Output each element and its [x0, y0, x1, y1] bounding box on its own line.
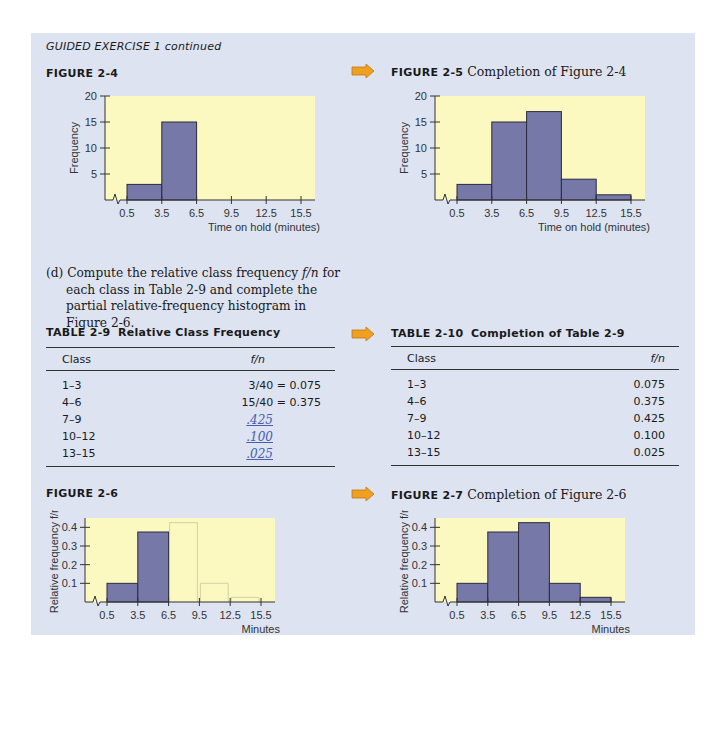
arrow-right-icon — [351, 64, 375, 78]
svg-text:20: 20 — [85, 90, 97, 102]
histogram-svg: 51015200.53.56.59.512.515.5Time on hold … — [60, 88, 330, 238]
figure-2-6-caption: FIGURE 2-6 — [46, 487, 118, 500]
table-2-10: Class f/n 1–30.0754–60.3757–90.42510–120… — [391, 346, 679, 466]
svg-text:5: 5 — [91, 168, 97, 180]
fn-cell: 0.075 — [634, 378, 680, 391]
figure-2-4-caption: FIGURE 2-4 — [46, 67, 118, 80]
histogram-svg: 0.10.20.30.40.53.56.59.512.515.5MinutesR… — [40, 510, 290, 640]
svg-text:Time on hold (minutes): Time on hold (minutes) — [208, 221, 320, 233]
instruction-text-italic: f/n — [302, 266, 318, 280]
svg-text:12.5: 12.5 — [255, 207, 276, 219]
svg-text:0.4: 0.4 — [62, 521, 77, 533]
table-2-9-label: TABLE 2-9 — [46, 326, 110, 339]
svg-text:20: 20 — [415, 90, 427, 102]
table-header-row: Class f/n — [391, 347, 679, 369]
section-header: GUIDED EXERCISE 1 continued — [46, 40, 221, 53]
handwritten-answer: .425 — [246, 413, 335, 427]
table-2-10-title: Completion of Table 2-9 — [471, 327, 625, 340]
class-cell: 13–15 — [46, 447, 96, 460]
svg-text:12.5: 12.5 — [569, 609, 590, 621]
fn-cell: 0.375 — [634, 395, 680, 408]
class-cell: 10–12 — [46, 430, 96, 443]
svg-text:0.3: 0.3 — [412, 540, 427, 552]
class-cell: 1–3 — [46, 379, 82, 392]
table-2-9-title: Relative Class Frequency — [118, 326, 280, 339]
svg-text:0.5: 0.5 — [449, 609, 464, 621]
class-cell: 7–9 — [391, 412, 427, 425]
figure-2-5-caption: FIGURE 2-5Completion of Figure 2-4 — [391, 64, 627, 79]
svg-text:6.5: 6.5 — [511, 609, 526, 621]
column-header-fn: f/n — [650, 352, 679, 365]
fn-cell: 0.100 — [634, 429, 680, 442]
table-row: 10–120.100 — [391, 427, 679, 444]
svg-text:9.5: 9.5 — [224, 207, 239, 219]
svg-text:Minutes: Minutes — [241, 623, 280, 635]
fn-cell: 15/40 = 0.375 — [242, 396, 335, 409]
fn-cell: 0.025 — [634, 446, 680, 459]
svg-text:0.5: 0.5 — [449, 207, 464, 219]
class-cell: 4–6 — [46, 396, 82, 409]
figure-2-6-histogram: 0.10.20.30.40.53.56.59.512.515.5MinutesR… — [40, 510, 290, 640]
svg-text:0.1: 0.1 — [412, 577, 427, 589]
svg-text:0.2: 0.2 — [412, 559, 427, 571]
figure-2-5-title: Completion of Figure 2-4 — [467, 64, 626, 79]
column-header-class: Class — [46, 353, 91, 366]
svg-text:0.1: 0.1 — [62, 577, 77, 589]
figure-2-7-label: FIGURE 2-7 — [391, 489, 463, 502]
class-cell: 7–9 — [46, 413, 82, 426]
class-cell: 1–3 — [391, 378, 427, 391]
figure-2-5-histogram: 51015200.53.56.59.512.515.5Time on hold … — [390, 88, 660, 238]
svg-text:3.5: 3.5 — [484, 207, 499, 219]
figure-2-5-label: FIGURE 2-5 — [391, 66, 463, 79]
figure-2-7-caption: FIGURE 2-7Completion of Figure 2-6 — [391, 487, 627, 502]
svg-text:6.5: 6.5 — [161, 609, 176, 621]
svg-text:3.5: 3.5 — [130, 609, 145, 621]
table-header-row: Class f/n — [46, 348, 335, 370]
arrow-right-icon — [351, 487, 375, 501]
figure-2-4-histogram: 51015200.53.56.59.512.515.5Time on hold … — [60, 88, 330, 238]
svg-text:3.5: 3.5 — [480, 609, 495, 621]
svg-text:0.3: 0.3 — [62, 540, 77, 552]
svg-text:6.5: 6.5 — [519, 207, 534, 219]
svg-text:15.5: 15.5 — [250, 609, 271, 621]
table-2-10-body: 1–30.0754–60.3757–90.42510–120.10013–150… — [391, 370, 679, 465]
svg-text:12.5: 12.5 — [219, 609, 240, 621]
fn-cell: 3/40 = 0.075 — [249, 379, 335, 392]
svg-text:15: 15 — [415, 116, 427, 128]
column-header-fn: f/n — [250, 353, 335, 366]
table-row: 7–90.425 — [391, 410, 679, 427]
svg-text:Time on hold (minutes): Time on hold (minutes) — [538, 221, 650, 233]
class-cell: 10–12 — [391, 429, 441, 442]
svg-text:5: 5 — [421, 168, 427, 180]
svg-text:9.5: 9.5 — [554, 207, 569, 219]
instruction-paragraph: (d) Compute the relative class frequency… — [46, 265, 346, 331]
svg-text:Frequency: Frequency — [68, 122, 80, 174]
table-row: 10–12.100 — [46, 428, 335, 445]
handwritten-answer: .100 — [246, 430, 335, 444]
svg-text:6.5: 6.5 — [189, 207, 204, 219]
svg-text:10: 10 — [415, 142, 427, 154]
histogram-svg: 0.10.20.30.40.53.56.59.512.515.5MinutesR… — [390, 510, 640, 640]
svg-text:15.5: 15.5 — [600, 609, 621, 621]
figure-2-6-label: FIGURE 2-6 — [46, 487, 118, 500]
class-cell: 13–15 — [391, 446, 441, 459]
histogram-svg: 51015200.53.56.59.512.515.5Time on hold … — [390, 88, 660, 238]
handwritten-answer: .025 — [246, 447, 335, 461]
svg-text:9.5: 9.5 — [192, 609, 207, 621]
table-2-9-caption: TABLE 2-9 Relative Class Frequency — [46, 326, 280, 339]
fn-cell: 0.425 — [634, 412, 680, 425]
svg-text:12.5: 12.5 — [585, 207, 606, 219]
figure-2-4-label: FIGURE 2-4 — [46, 67, 118, 80]
column-header-class: Class — [391, 352, 436, 365]
instruction-text-prefix: (d) Compute the relative class frequency — [46, 266, 302, 280]
class-cell: 4–6 — [391, 395, 427, 408]
svg-text:15.5: 15.5 — [620, 207, 641, 219]
svg-text:Frequency: Frequency — [398, 122, 410, 174]
table-2-9: Class f/n 1–33/40 = 0.0754–615/40 = 0.37… — [46, 347, 335, 467]
svg-text:15: 15 — [85, 116, 97, 128]
arrow-right-icon — [351, 327, 375, 341]
table-2-10-label: TABLE 2-10 — [391, 327, 463, 340]
svg-text:10: 10 — [85, 142, 97, 154]
table-row: 13–15.025 — [46, 445, 335, 462]
svg-text:Minutes: Minutes — [591, 623, 630, 635]
